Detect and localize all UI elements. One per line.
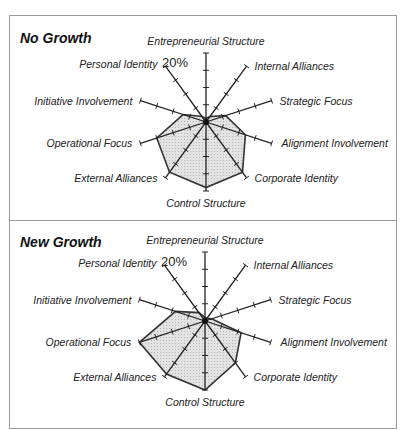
scale-label: 20% — [161, 254, 187, 269]
axis-label: Internal Alliances — [254, 259, 334, 271]
axis-label: Initiative Involvement — [33, 294, 132, 306]
axis-label: Entrepreneurial Structure — [146, 234, 263, 246]
radar-chart-no-growth: Entrepreneurial StructureInternal Allian… — [10, 16, 396, 220]
axis-internal-alliances: Internal Alliances — [205, 259, 334, 321]
axis-label: Strategic Focus — [280, 95, 354, 107]
axis-label: External Alliances — [74, 172, 158, 184]
axis-label: Strategic Focus — [279, 294, 353, 306]
panel-new-growth: New Growth Entrepreneurial StructureInte… — [10, 220, 396, 428]
axis-strategic-focus: Strategic Focus — [205, 294, 352, 321]
axis-internal-alliances: Internal Alliances — [206, 60, 335, 122]
axis-label: Personal Identity — [79, 58, 158, 70]
axis-label: Corporate Identity — [255, 172, 339, 184]
axis-label: Control Structure — [165, 396, 245, 408]
axis-label: Corporate Identity — [254, 371, 338, 383]
figure-frame: No Growth Entrepreneurial StructureInter… — [9, 15, 397, 429]
axis-label: Initiative Involvement — [34, 95, 133, 107]
data-polygon — [157, 115, 246, 188]
axis-label: Entrepreneurial Structure — [147, 35, 264, 47]
panel-no-growth: No Growth Entrepreneurial StructureInter… — [10, 16, 396, 221]
center-point — [202, 318, 208, 324]
axis-label: Personal Identity — [78, 257, 157, 269]
axis-label: Operational Focus — [46, 336, 133, 348]
axis-label: Internal Alliances — [255, 60, 335, 72]
center-point — [203, 119, 209, 125]
axis-label: Operational Focus — [47, 137, 134, 149]
axis-label: Alignment Involvement — [281, 137, 389, 149]
axis-label: External Alliances — [73, 371, 157, 383]
radar-chart-new-growth: Entrepreneurial StructureInternal Allian… — [10, 220, 396, 428]
axis-label: Control Structure — [166, 197, 246, 209]
scale-label: 20% — [162, 55, 188, 70]
axis-label: Alignment Involvement — [280, 336, 388, 348]
